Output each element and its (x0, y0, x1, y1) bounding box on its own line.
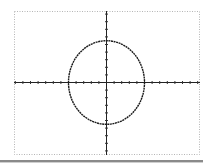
bottom-divider-shadow (0, 162, 203, 163)
graph-plot (0, 0, 210, 167)
axes (14, 11, 200, 155)
